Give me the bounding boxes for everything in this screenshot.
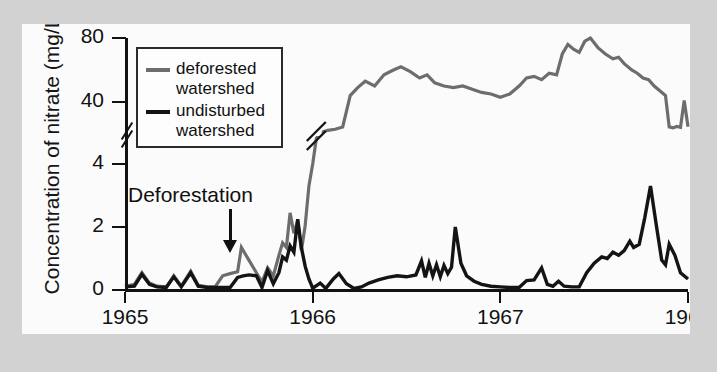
y-axis-break-marker <box>118 126 136 144</box>
page-margin-top <box>0 0 717 24</box>
y-tick-mark <box>112 226 126 228</box>
legend-item-undisturbed: undisturbedwatershed <box>146 101 265 141</box>
chart-legend: deforestedwatershed undisturbedwatershed <box>136 47 283 148</box>
x-tick-label: 1966 <box>268 305 358 329</box>
y-tick-mark <box>112 101 126 103</box>
x-tick-mark <box>124 292 126 303</box>
y-tick-mark <box>112 37 126 39</box>
legend-swatch-undisturbed <box>146 110 170 114</box>
y-tick-mark <box>112 289 126 291</box>
x-tick-mark <box>499 292 501 303</box>
x-tick-label: 1965 <box>80 305 170 329</box>
x-tick-mark <box>312 292 314 303</box>
page-margin-left <box>0 0 22 372</box>
x-axis-line <box>125 289 688 292</box>
x-tick-mark <box>687 292 689 303</box>
y-axis-title: Concentration of nitrate (mg/L) <box>40 7 64 297</box>
legend-label-undisturbed-line1: undisturbed <box>176 101 265 120</box>
deforestation-annotation-label: Deforestation <box>128 183 253 207</box>
legend-item-deforested: deforestedwatershed <box>146 59 256 99</box>
page-margin-right <box>690 0 717 372</box>
deforestation-arrow-head <box>223 240 237 253</box>
legend-label-deforested-line1: deforested <box>176 59 256 78</box>
y-tick-mark <box>112 163 126 165</box>
x-tick-label: 1967 <box>455 305 545 329</box>
legend-label-undisturbed-line2: watershed <box>176 121 254 140</box>
page-margin-bottom <box>0 334 717 372</box>
legend-label-deforested-line2: watershed <box>176 79 254 98</box>
figure-container: tals using elements in their course acro… <box>0 0 717 372</box>
legend-swatch-deforested <box>146 68 170 72</box>
